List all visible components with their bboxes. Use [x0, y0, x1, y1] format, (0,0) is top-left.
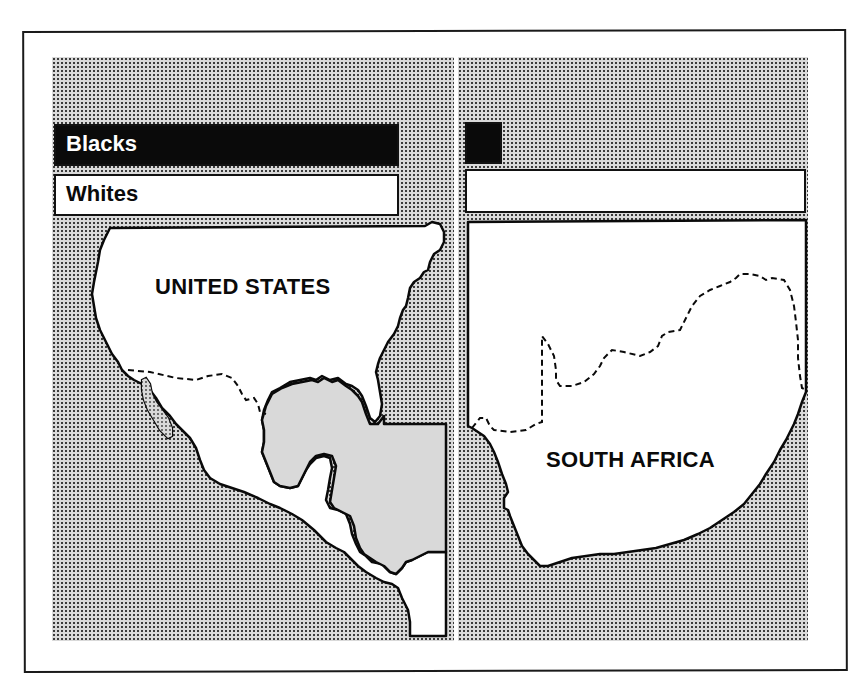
legend-bar-blacks-sa	[465, 122, 502, 164]
panel-south-africa: SOUTH AFRICA	[458, 57, 808, 641]
legend-bar-whites-us: Whites	[54, 174, 399, 216]
south-africa-landmass	[468, 220, 806, 566]
south-africa-map	[458, 57, 808, 641]
country-label-south-africa: SOUTH AFRICA	[546, 447, 715, 473]
panel-united-states: Blacks Whites UNITED STATES	[52, 57, 454, 641]
country-label-united-states: UNITED STATES	[155, 274, 330, 300]
legend-bar-blacks-us: Blacks	[54, 124, 399, 166]
legend-bar-whites-sa	[465, 169, 806, 213]
